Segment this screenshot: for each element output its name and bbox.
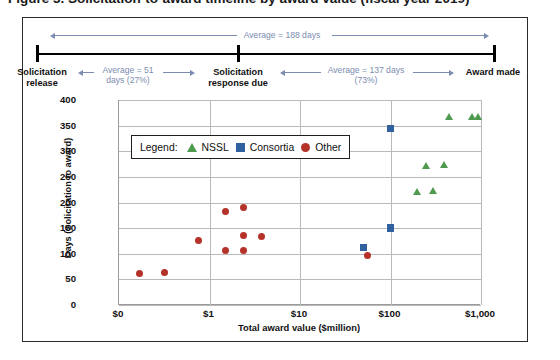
figure-root: Figure 3. Solicitation-to-award timeline… [0, 0, 560, 360]
data-point-nssl [413, 188, 421, 195]
x-tick-label: $0 [88, 308, 148, 319]
segment1-arrow-head-right [190, 70, 195, 76]
data-point-consortia [387, 224, 395, 232]
y-tick-label: 0 [36, 299, 76, 310]
data-point-other [136, 270, 143, 277]
legend-label-consortia: Consortia [250, 142, 294, 153]
x-axis-label: Total award value ($million) [118, 322, 480, 333]
data-point-nssl [440, 161, 448, 168]
overall-average-label: Average = 188 days [237, 30, 327, 40]
data-point-other [222, 247, 229, 254]
node-line-2: release [8, 78, 76, 89]
segment2-arrow-line-left [285, 72, 321, 73]
timeline-node-solicitation-response-due: Solicitation response due [198, 67, 278, 89]
x-tick-label: $1,000 [450, 308, 510, 319]
y-tick-label: 300 [36, 145, 76, 156]
legend-label-nssl: NSSL [202, 142, 229, 153]
timeline-node-solicitation-release: Solicitation release [8, 67, 76, 89]
timeline-node-award-made: Award made [460, 67, 526, 78]
legend-item-consortia: Consortia [236, 142, 294, 153]
data-point-nssl [445, 113, 453, 120]
y-tick-label: 350 [36, 120, 76, 131]
circle-icon [301, 143, 310, 152]
segment1-average-label: Average = 51 days (27%) [92, 65, 164, 85]
square-icon [236, 143, 245, 152]
segment2-average-label: Average = 137 days (73%) [318, 65, 414, 85]
segment2-arrow-line-right [413, 72, 449, 73]
timeline-tick-end [493, 45, 496, 62]
triangle-icon [187, 143, 197, 152]
timeline-diagram: Average = 188 days Solicitation release … [22, 17, 528, 92]
segment2-line-2: (73%) [318, 75, 414, 85]
timeline-tick-mid [237, 45, 240, 62]
segment2-line-1: Average = 137 days [318, 65, 414, 75]
data-point-nssl [429, 187, 437, 194]
grid-line-vertical [481, 100, 482, 305]
data-point-nssl [422, 162, 430, 169]
segment2-arrow-head-right [449, 70, 454, 76]
legend-item-other: Other [301, 142, 341, 153]
node-line-1: Solicitation [198, 67, 278, 78]
legend-title: Legend: [140, 142, 178, 153]
timeline-baseline [36, 53, 496, 55]
chart-legend: Legend: NSSL Consortia Other [131, 135, 350, 159]
overall-arrow-line-right [332, 35, 484, 36]
data-point-other [240, 232, 247, 239]
node-line-1: Solicitation [8, 67, 76, 78]
y-tick-label: 250 [36, 171, 76, 182]
node-line-1: Award made [460, 67, 526, 78]
legend-label-other: Other [315, 142, 341, 153]
x-tick-label: $1 [179, 308, 239, 319]
overall-arrow-head-right [484, 33, 489, 39]
data-point-consortia [360, 244, 368, 252]
scatter-plot-area [118, 100, 480, 305]
grid-line-vertical [210, 100, 211, 305]
y-tick-label: 50 [36, 273, 76, 284]
x-tick-label: $10 [269, 308, 329, 319]
node-line-2: response due [198, 78, 278, 89]
figure-caption: Figure 3. Solicitation-to-award timeline… [0, 0, 560, 13]
data-point-other [195, 237, 202, 244]
timeline-tick-start [36, 45, 39, 62]
data-point-other [240, 204, 247, 211]
segment1-line-2: days (27%) [92, 75, 164, 85]
segment1-line-1: Average = 51 [92, 65, 164, 75]
y-tick-label: 150 [36, 222, 76, 233]
data-point-other [258, 233, 265, 240]
data-point-other [161, 269, 168, 276]
segment1-arrow-line-right [163, 72, 190, 73]
y-tick-label: 400 [36, 94, 76, 105]
y-tick-label: 100 [36, 248, 76, 259]
overall-arrow-line-left [55, 35, 237, 36]
data-point-consortia [387, 125, 395, 133]
grid-line-horizontal [119, 305, 481, 306]
data-point-other [364, 252, 371, 259]
grid-line-vertical [300, 100, 301, 305]
legend-item-nssl: NSSL [187, 142, 229, 153]
y-tick-label: 200 [36, 197, 76, 208]
data-point-nssl [474, 113, 482, 120]
figure-caption-text: Figure 3. Solicitation-to-award timeline… [8, 0, 469, 6]
x-tick-label: $100 [360, 308, 420, 319]
data-point-other [222, 208, 229, 215]
